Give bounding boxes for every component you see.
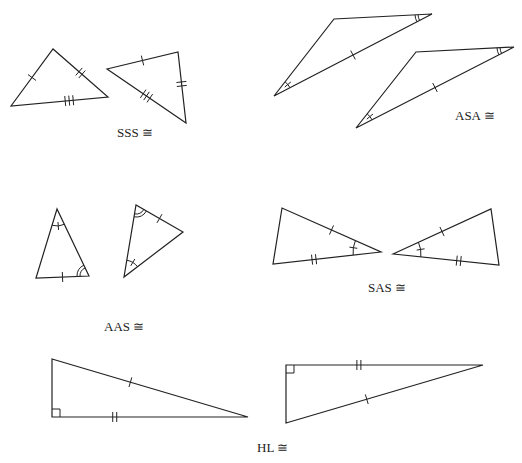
- sss-triangle-2: [107, 52, 186, 123]
- tick-mark: [433, 83, 438, 92]
- aas-triangle-1: [36, 209, 89, 278]
- hl-triangle-2: [286, 365, 483, 423]
- tick-mark: [28, 75, 36, 81]
- right-angle-marker: [286, 365, 294, 373]
- sss-triangle-1: [11, 49, 108, 106]
- angle-tick-mark: [349, 247, 357, 248]
- hl-label: HL ≅: [257, 440, 288, 455]
- angle-tick-mark: [58, 222, 59, 230]
- tick-mark: [456, 256, 457, 266]
- tick-mark: [65, 96, 66, 106]
- tick-mark: [351, 51, 356, 60]
- hl-triangle-1: [52, 359, 248, 417]
- aas-panel: AAS ≅: [36, 205, 183, 334]
- angle-arc: [135, 209, 144, 214]
- tick-mark: [73, 95, 74, 105]
- angle-tick-mark: [417, 249, 425, 250]
- sas-triangle-1: [273, 208, 381, 264]
- hl-triangles: [52, 359, 483, 423]
- tick-mark: [176, 81, 186, 82]
- hl-panel: HL ≅: [52, 359, 483, 455]
- right-angle-marker: [52, 409, 60, 417]
- tick-mark: [440, 227, 444, 236]
- angle-tick-mark: [131, 259, 135, 266]
- angle-arc: [497, 48, 499, 55]
- sas-triangles: [273, 208, 499, 266]
- triangle-congruence-diagram: SSS ≅ ASA ≅ AAS ≅ SAS ≅ HL ≅: [0, 0, 522, 463]
- aas-triangle-2: [124, 205, 183, 277]
- sss-triangles: [11, 49, 187, 123]
- tick-mark: [312, 255, 313, 265]
- sss-label: SSS ≅: [117, 125, 153, 140]
- angle-arc: [418, 15, 420, 21]
- sss-panel: SSS ≅: [11, 49, 187, 140]
- tick-mark: [147, 94, 153, 102]
- angle-arc: [500, 48, 502, 54]
- tick-mark: [69, 96, 70, 106]
- tick-mark: [460, 256, 461, 266]
- aas-triangles: [36, 205, 183, 282]
- tick-mark: [315, 254, 316, 264]
- aas-label: AAS ≅: [104, 319, 144, 334]
- tick-mark: [140, 90, 146, 98]
- sas-label: SAS ≅: [368, 280, 406, 295]
- asa-panel: ASA ≅: [274, 14, 514, 128]
- sas-triangle-2: [393, 209, 499, 265]
- tick-mark: [144, 92, 150, 100]
- tick-mark: [157, 214, 162, 223]
- angle-arc: [415, 15, 417, 22]
- sas-panel: SAS ≅: [273, 208, 499, 295]
- asa-label: ASA ≅: [455, 108, 495, 123]
- angle-arc: [80, 268, 85, 276]
- tick-mark: [177, 85, 187, 86]
